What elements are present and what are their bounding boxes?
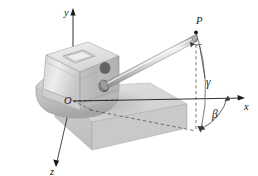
x-axis-arrowhead (238, 95, 245, 101)
figure-canvas: γ β P y x z O (0, 0, 258, 176)
gamma-guide-curve (197, 34, 206, 131)
z-axis-label: z (49, 166, 54, 176)
point-p-marker (194, 31, 198, 35)
x-axis-label: x (243, 101, 249, 112)
origin-label: O (64, 95, 72, 106)
point-p-label: P (195, 15, 203, 26)
y-axis-label: y (63, 7, 69, 18)
point-p: P (194, 15, 203, 34)
gamma-leader-line (200, 46, 205, 78)
y-axis-arrowhead (70, 8, 75, 15)
beta-label: β (211, 108, 218, 121)
gamma-label: γ (206, 76, 211, 89)
